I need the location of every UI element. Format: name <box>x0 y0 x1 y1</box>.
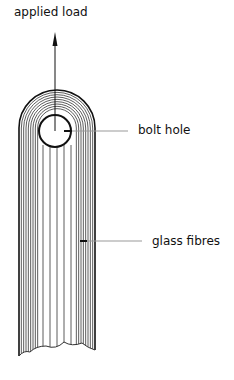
label-applied-load: applied load <box>14 5 88 19</box>
label-bolt-hole: bolt hole <box>138 123 190 137</box>
load-arrow-head <box>53 32 58 46</box>
label-glass-fibres: glass fibres <box>152 234 220 248</box>
fibre-loop-diagram: applied load bolt hole glass fibres <box>0 0 234 380</box>
